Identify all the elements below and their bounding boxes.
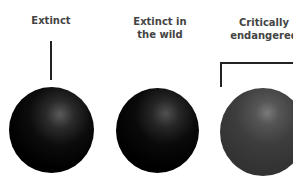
label-extinct: Extinct [21,14,81,27]
sphere-extinct-in-the-wild [116,88,199,173]
label-critically-endangered: Critically endangered [224,16,293,42]
label-extinct-in-the-wild-line1: Extinct in [120,15,200,28]
label-extinct-in-the-wild: Extinct in the wild [120,15,200,41]
critically-bracket-horizontal [220,62,293,64]
sphere-extinct [9,87,94,173]
extinct-connector-line [50,41,52,80]
sphere-critically-endangered [220,88,293,176]
critically-bracket-vertical [220,62,222,87]
label-extinct-in-the-wild-line2: the wild [120,28,200,41]
label-critically-endangered-line2: endangered [224,29,293,42]
label-critically-endangered-line1: Critically [224,16,293,29]
